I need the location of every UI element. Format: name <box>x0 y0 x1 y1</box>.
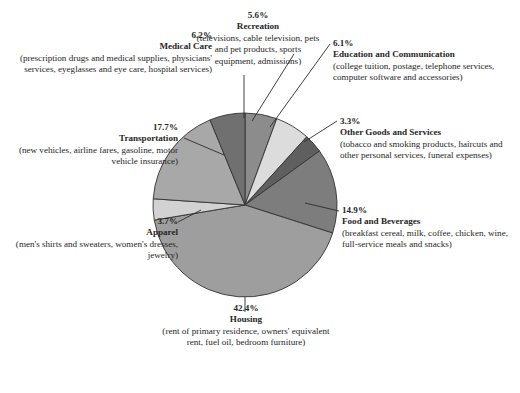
pie-chart: 6.2% Medical Care (prescription drugs an… <box>0 0 520 393</box>
slice-percent-education: 6.1% <box>333 38 515 49</box>
slice-label-food: 14.9% Food and Beverages (breakfast cere… <box>342 205 518 251</box>
slice-title-recreation: Recreation <box>196 21 320 32</box>
slice-label-recreation: 5.6% Recreation (televisions, cable tele… <box>196 10 320 67</box>
pie-slice-group <box>153 113 337 297</box>
slice-percent-housing: 42.4% <box>158 303 334 314</box>
slice-percent-food: 14.9% <box>342 205 518 216</box>
leader-line-other-goods <box>304 121 337 142</box>
slice-description-housing: (rent of primary residence, owners' equi… <box>158 326 334 349</box>
slice-percent-apparel: 3.7% <box>6 216 178 227</box>
slice-label-apparel: 3.7% Apparel (men's shirts and sweaters,… <box>6 216 178 262</box>
slice-description-other-goods: (tobacco and smoking products, haircuts … <box>340 139 518 162</box>
slice-title-food: Food and Beverages <box>342 216 518 227</box>
slice-description-education: (college tuition, postage, telephone ser… <box>333 61 515 84</box>
slice-percent-recreation: 5.6% <box>196 10 320 21</box>
slice-label-education: 6.1% Education and Communication (colleg… <box>333 38 515 84</box>
slice-title-other-goods: Other Goods and Services <box>340 127 518 138</box>
slice-title-transportation: Transportation <box>4 133 178 144</box>
slice-title-education: Education and Communication <box>333 49 515 60</box>
slice-description-transportation: (new vehicles, airline fares, gasoline, … <box>4 145 178 168</box>
slice-title-medical-care: Medical Care <box>8 41 212 52</box>
slice-label-other-goods: 3.3% Other Goods and Services (tobacco a… <box>340 116 518 162</box>
slice-label-housing: 42.4% Housing (rent of primary residence… <box>158 303 334 349</box>
slice-description-medical-care: (prescription drugs and medical supplies… <box>8 53 212 76</box>
slice-percent-transportation: 17.7% <box>4 122 178 133</box>
slice-percent-medical-care: 6.2% <box>8 30 212 41</box>
slice-percent-other-goods: 3.3% <box>340 116 518 127</box>
slice-label-transportation: 17.7% Transportation (new vehicles, airl… <box>4 122 178 168</box>
slice-description-apparel: (men's shirts and sweaters, women's dres… <box>6 239 178 262</box>
slice-description-recreation: (televisions, cable television, pets and… <box>196 33 320 67</box>
slice-label-medical-care: 6.2% Medical Care (prescription drugs an… <box>8 30 212 76</box>
slice-description-food: (breakfast cereal, milk, coffee, chicken… <box>342 228 518 251</box>
slice-title-apparel: Apparel <box>6 227 178 238</box>
slice-title-housing: Housing <box>158 314 334 325</box>
